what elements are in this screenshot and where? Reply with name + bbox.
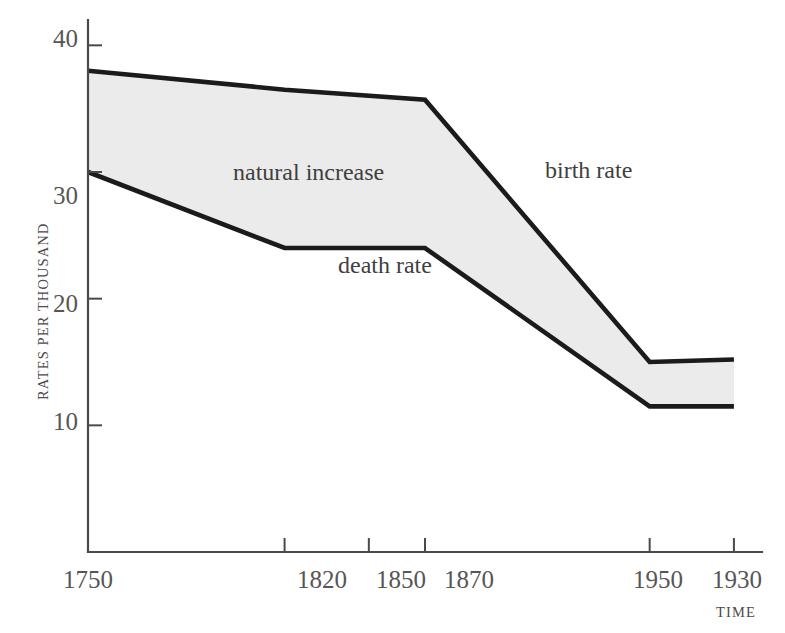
x-tick-label-1850: 1850 — [376, 566, 426, 593]
x-tick-label-1930: 1930 — [712, 566, 762, 593]
birth-rate-label: birth rate — [545, 157, 632, 183]
y-tick-label-30: 30 — [53, 182, 78, 209]
death-rate-label: death rate — [338, 252, 432, 278]
x-axis-ticks — [88, 538, 734, 552]
natural-increase-band — [88, 71, 734, 407]
demographic-transition-chart: 40 30 20 10 1750 1820 1850 1870 1950 193… — [0, 0, 785, 633]
x-tick-label-1820: 1820 — [297, 566, 347, 593]
x-tick-label-1750: 1750 — [63, 566, 113, 593]
y-axis-title: RATES PER THOUSAND — [35, 223, 51, 400]
x-tick-label-1950: 1950 — [633, 566, 683, 593]
y-tick-label-20: 20 — [53, 290, 78, 317]
x-tick-label-1870: 1870 — [444, 566, 494, 593]
chart-container: 40 30 20 10 1750 1820 1850 1870 1950 193… — [0, 0, 785, 633]
x-axis-title: TIME — [716, 604, 756, 620]
y-tick-label-40: 40 — [53, 25, 78, 52]
y-tick-label-10: 10 — [53, 408, 78, 435]
natural-increase-label: natural increase — [233, 159, 384, 185]
